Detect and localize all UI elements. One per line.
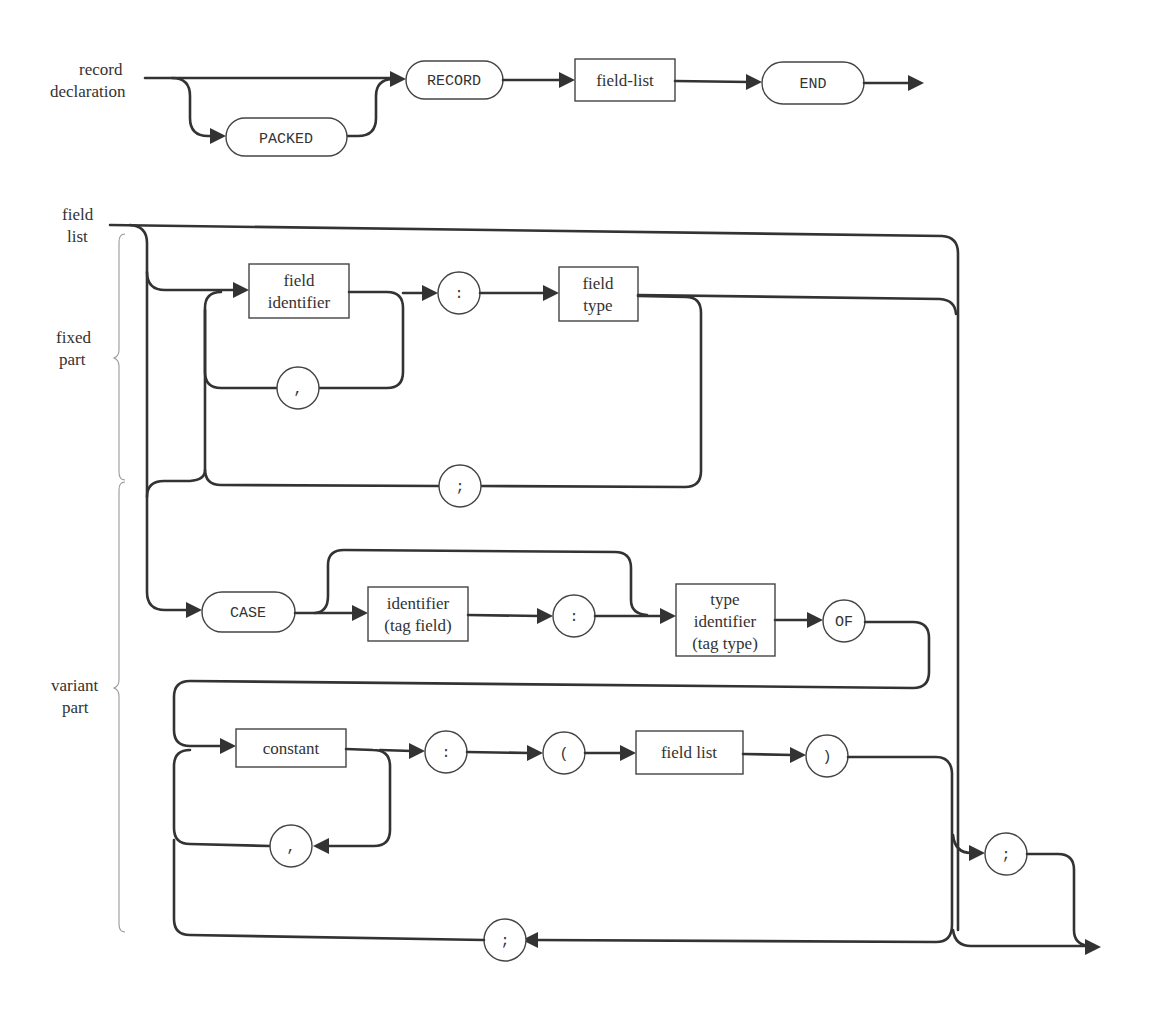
record-declaration-diagram: record declaration PACKED RECORD field-l… bbox=[50, 59, 924, 156]
node-field-list: field-list bbox=[575, 59, 675, 101]
node-end: END bbox=[762, 62, 864, 104]
svg-text:END: END bbox=[799, 76, 826, 93]
node-constant: constant bbox=[236, 729, 346, 767]
arrow-icon bbox=[1085, 939, 1101, 955]
svg-text:): ) bbox=[822, 749, 831, 766]
node-field-identifier: field identifier bbox=[249, 264, 349, 318]
connector-line bbox=[743, 754, 793, 755]
fixed-part-label-line1: fixed bbox=[56, 328, 91, 347]
node-field-list-nested: field list bbox=[636, 731, 743, 774]
arrow-icon bbox=[969, 845, 985, 861]
svg-text:;: ; bbox=[455, 479, 464, 496]
arrow-icon bbox=[660, 608, 676, 624]
node-of: OF bbox=[823, 600, 865, 642]
svg-text::: : bbox=[454, 286, 463, 303]
arrow-icon bbox=[790, 747, 806, 763]
fixed-part-brace bbox=[114, 234, 125, 480]
svg-text:constant: constant bbox=[263, 739, 320, 758]
svg-text:;: ; bbox=[1001, 847, 1010, 864]
node-record: RECORD bbox=[406, 61, 503, 99]
svg-text:identifier: identifier bbox=[268, 293, 331, 312]
connector-line bbox=[315, 550, 647, 615]
connector-line bbox=[535, 757, 952, 942]
record-declaration-label-line1: record bbox=[79, 60, 123, 79]
node-field-type: field type bbox=[559, 267, 638, 321]
arrow-icon bbox=[537, 608, 553, 624]
connector-line bbox=[174, 622, 929, 746]
svg-text:;: ; bbox=[500, 933, 509, 950]
node-comma: , bbox=[277, 367, 319, 409]
field-list-label-line1: field bbox=[62, 205, 94, 224]
svg-text:(: ( bbox=[559, 746, 568, 763]
field-list-diagram: field list fixed part variant part field… bbox=[51, 205, 1101, 961]
arrow-icon bbox=[908, 75, 924, 91]
node-exit-semicolon: ; bbox=[985, 833, 1027, 875]
variant-part-label-line1: variant bbox=[51, 676, 98, 695]
svg-text:field list: field list bbox=[661, 743, 717, 762]
svg-text:field-list: field-list bbox=[596, 71, 654, 90]
connector-line bbox=[110, 225, 958, 930]
arrow-icon bbox=[620, 745, 636, 761]
fixed-part-label-line2: part bbox=[59, 350, 86, 369]
arrow-icon bbox=[210, 128, 226, 144]
svg-text::: : bbox=[441, 745, 450, 762]
connector-line bbox=[468, 615, 540, 616]
connector-line bbox=[953, 930, 1088, 946]
svg-text:type: type bbox=[710, 590, 739, 609]
svg-text:type: type bbox=[583, 296, 612, 315]
node-colon-tag: : bbox=[553, 595, 595, 637]
node-case: CASE bbox=[202, 592, 295, 632]
syntax-diagram: record declaration PACKED RECORD field-l… bbox=[0, 0, 1154, 1017]
arrow-icon bbox=[313, 838, 329, 854]
svg-text:,: , bbox=[286, 839, 295, 856]
connector-line bbox=[130, 225, 190, 610]
svg-text:RECORD: RECORD bbox=[427, 73, 481, 90]
arrow-icon bbox=[186, 602, 202, 618]
svg-text:OF: OF bbox=[835, 614, 853, 631]
svg-text:field: field bbox=[582, 274, 614, 293]
arrow-icon bbox=[746, 74, 762, 90]
node-colon-variant: : bbox=[425, 731, 467, 773]
node-packed: PACKED bbox=[226, 118, 347, 156]
svg-text:field: field bbox=[283, 271, 315, 290]
connector-line bbox=[172, 78, 214, 136]
node-type-identifier-tag-type: type identifier (tag type) bbox=[676, 584, 775, 656]
record-declaration-label-line2: declaration bbox=[50, 82, 126, 101]
svg-text:CASE: CASE bbox=[230, 605, 266, 622]
arrow-icon bbox=[422, 285, 438, 301]
arrow-icon bbox=[220, 738, 236, 754]
connector-line bbox=[147, 272, 237, 290]
node-semicolon-fixed: ; bbox=[439, 465, 481, 507]
svg-text:identifier: identifier bbox=[694, 612, 757, 631]
svg-text::: : bbox=[569, 609, 578, 626]
connector-line bbox=[675, 81, 749, 82]
field-list-label-line2: list bbox=[67, 227, 88, 246]
arrow-icon bbox=[233, 282, 249, 298]
arrow-icon bbox=[352, 605, 368, 621]
node-constant-comma: , bbox=[270, 825, 312, 867]
arrow-icon bbox=[527, 745, 543, 761]
arrow-icon bbox=[807, 612, 823, 628]
arrow-icon bbox=[409, 743, 425, 759]
connector-line bbox=[347, 79, 392, 136]
svg-text:identifier: identifier bbox=[387, 594, 450, 613]
svg-text:PACKED: PACKED bbox=[259, 131, 313, 148]
node-colon: : bbox=[438, 272, 480, 314]
svg-text:,: , bbox=[293, 381, 302, 398]
connector-line bbox=[380, 750, 412, 751]
connector-line bbox=[147, 470, 205, 497]
svg-text:(tag type): (tag type) bbox=[692, 634, 758, 653]
variant-part-brace bbox=[114, 482, 125, 932]
svg-text:(tag field): (tag field) bbox=[384, 616, 452, 635]
arrow-icon bbox=[543, 285, 559, 301]
connector-line bbox=[467, 752, 530, 753]
arrow-icon bbox=[390, 71, 406, 87]
arrow-icon bbox=[559, 72, 575, 88]
node-close-paren: ) bbox=[806, 735, 848, 777]
connector-line bbox=[174, 840, 484, 940]
node-open-paren: ( bbox=[543, 732, 585, 774]
node-identifier-tag-field: identifier (tag field) bbox=[368, 587, 468, 641]
connector-line bbox=[481, 296, 701, 487]
connector-line bbox=[1027, 854, 1088, 946]
variant-part-label-line2: part bbox=[62, 698, 89, 717]
